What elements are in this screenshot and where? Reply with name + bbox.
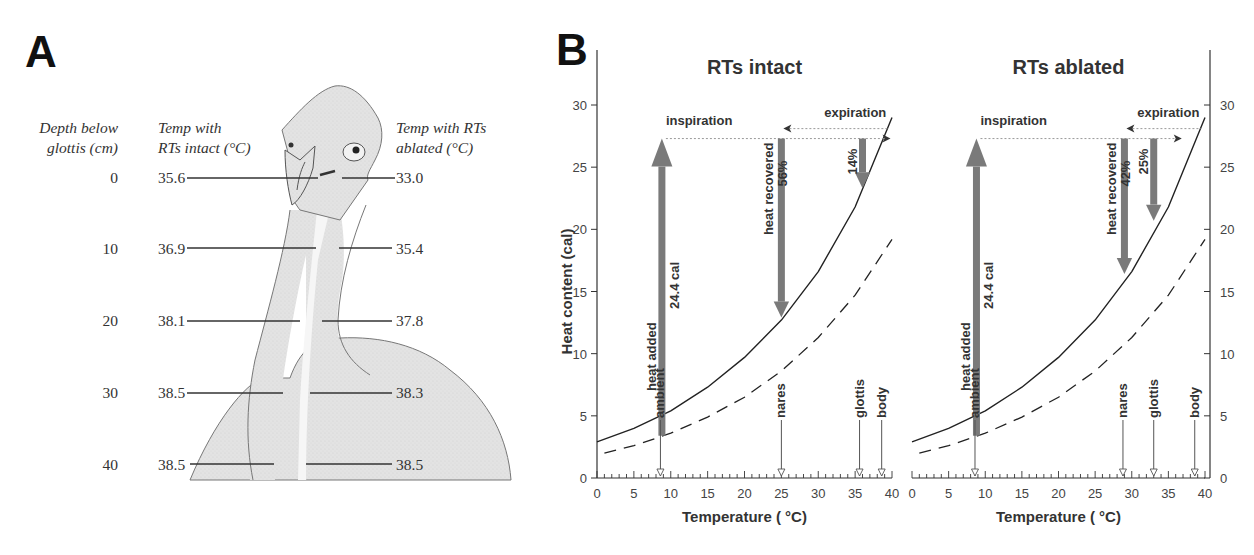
heat-recovered-label: heat recovered [1104, 143, 1119, 236]
marker-label-glottis: glottis [852, 379, 867, 418]
marker-body-head [878, 469, 885, 476]
marker-label-ambient: ambient [652, 367, 667, 418]
x-axis-label: Temperature ( °C) [682, 508, 807, 525]
heat-added-value: 24.4 cal [981, 262, 996, 309]
heat-added-arrow-head [651, 139, 672, 167]
y-tick-label: 10 [1220, 347, 1234, 362]
x-tick-label: 5 [630, 486, 637, 501]
marker-label-body: body [874, 386, 889, 418]
heat-recovered-arrow [1121, 139, 1128, 259]
chart-rts-ablated: 0510152025303540Temperature ( °C)0510152… [908, 50, 1234, 525]
inspiration-label: inspiration [980, 113, 1047, 128]
x-tick-label: 30 [1125, 486, 1139, 501]
x-tick-label: 40 [1198, 486, 1212, 501]
heat-recovered-label: heat recovered [761, 143, 776, 236]
y-tick-label: 15 [1220, 285, 1234, 300]
heat-recovered-pct: 42% [1118, 160, 1133, 186]
y-tick-label: 0 [580, 471, 587, 486]
small-pct-arrow [1150, 139, 1157, 205]
y-tick-label: 25 [1220, 160, 1234, 175]
y-axis-label: Heat content (cal) [558, 229, 575, 355]
caption-strip [0, 540, 1254, 555]
heat-added-arrow-head [966, 139, 987, 167]
y-tick-label: 0 [1220, 471, 1227, 486]
solid-curve [912, 117, 1205, 442]
chart-title: RTs intact [707, 56, 803, 78]
x-tick-label: 0 [593, 486, 600, 501]
chart-rts-intact: 0510152025303540Temperature ( °C)0510152… [558, 50, 899, 525]
x-tick-label: 15 [700, 486, 714, 501]
inspiration-arrowhead [1174, 135, 1182, 143]
y-tick-label: 30 [573, 98, 587, 113]
heat-recovered-arrow-head [774, 302, 789, 318]
x-tick-label: 25 [774, 486, 788, 501]
y-tick-label: 5 [1220, 409, 1227, 424]
inspiration-label: inspiration [666, 113, 733, 128]
panel-b-charts: 0510152025303540Temperature ( °C)0510152… [0, 0, 1254, 555]
y-tick-label: 20 [1220, 222, 1234, 237]
x-tick-label: 30 [811, 486, 825, 501]
marker-nares-head [1119, 469, 1126, 476]
expiration-label: expiration [824, 105, 886, 120]
marker-glottis-head [1150, 469, 1157, 476]
x-tick-label: 5 [945, 486, 952, 501]
marker-label-glottis: glottis [1146, 379, 1161, 418]
x-tick-label: 35 [1161, 486, 1175, 501]
x-tick-label: 20 [737, 486, 751, 501]
y-tick-label: 5 [580, 409, 587, 424]
x-axis-label: Temperature ( °C) [996, 508, 1121, 525]
marker-label-body: body [1187, 386, 1202, 418]
small-pct-label: 14% [845, 148, 860, 174]
heat-added-value: 24.4 cal [667, 262, 682, 309]
marker-body-head [1191, 469, 1198, 476]
marker-ambient-head [657, 469, 664, 476]
heat-recovered-arrow-head [1117, 258, 1132, 274]
x-tick-label: 15 [1015, 486, 1029, 501]
y-tick-label: 30 [1220, 98, 1234, 113]
x-tick-label: 10 [978, 486, 992, 501]
marker-label-nares: nares [773, 383, 788, 418]
x-tick-label: 25 [1088, 486, 1102, 501]
chart-title: RTs ablated [1013, 56, 1125, 78]
x-tick-label: 20 [1051, 486, 1065, 501]
small-pct-arrow-head [1146, 205, 1161, 221]
expiration-label: expiration [1137, 105, 1199, 120]
marker-label-ambient: ambient [967, 367, 982, 418]
marker-nares-head [778, 469, 785, 476]
marker-label-nares: nares [1115, 383, 1130, 418]
x-tick-label: 10 [664, 486, 678, 501]
marker-glottis-head [856, 469, 863, 476]
small-pct-arrow [859, 139, 866, 173]
marker-ambient-head [971, 469, 978, 476]
small-pct-label: 25% [1136, 148, 1151, 174]
x-tick-label: 35 [848, 486, 862, 501]
y-tick-label: 25 [573, 160, 587, 175]
heat-recovered-pct: 56% [775, 160, 790, 186]
x-tick-label: 0 [908, 486, 915, 501]
x-tick-label: 40 [885, 486, 899, 501]
